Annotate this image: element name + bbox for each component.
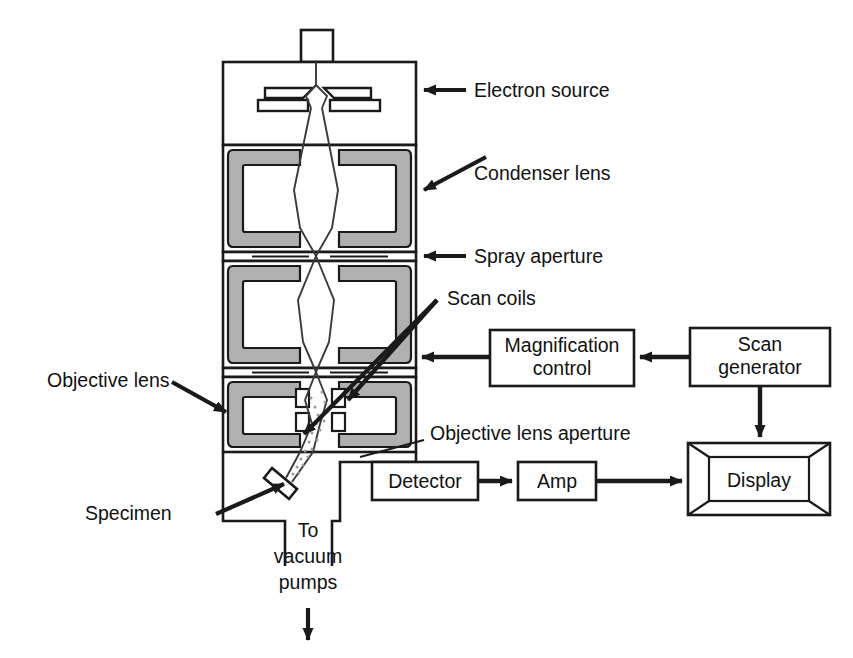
scan-generator-label-line1: Scan (738, 333, 782, 355)
display-label: Display (727, 469, 791, 491)
scan-coils-label: Scan coils (447, 287, 536, 309)
wehnelt-plate-right (324, 88, 371, 98)
spray-aperture (223, 252, 416, 261)
scan-coil-lower-right (332, 413, 345, 431)
objective-lens-aperture-label: Objective lens aperture (430, 422, 631, 444)
anode-plate-right (330, 100, 380, 111)
display-monitor[interactable]: Display (688, 443, 830, 515)
electron-source-label: Electron source (474, 79, 609, 101)
spray-aperture-label: Spray aperture (474, 245, 603, 267)
detector-label: Detector (388, 470, 462, 492)
objective-aperture-plate (223, 368, 416, 377)
vacuum-pumps-label-line3: pumps (279, 571, 338, 593)
objective-lens-label: Objective lens (47, 369, 170, 391)
vacuum-pumps-label-line1: To (298, 519, 319, 541)
condenser-lens-label: Condenser lens (474, 162, 611, 184)
sem-schematic-diagram: Magnification control Scan generator Det… (0, 0, 853, 658)
anode-plate-left (258, 100, 308, 111)
scan-generator-label-line2: generator (718, 356, 802, 378)
sem-diagram-page: Magnification control Scan generator Det… (0, 0, 853, 658)
vacuum-pumps-label-line2: vacuum (274, 545, 342, 567)
amp-label: Amp (537, 470, 577, 492)
magnification-control-label-line1: Magnification (505, 334, 620, 356)
electron-gun-chimney (301, 30, 333, 62)
condenser-lens-1 (223, 145, 416, 252)
specimen-label: Specimen (85, 502, 172, 524)
magnification-control-label-line2: control (533, 357, 592, 379)
objective-lens (223, 377, 416, 452)
electron-gun-chamber (223, 62, 416, 145)
